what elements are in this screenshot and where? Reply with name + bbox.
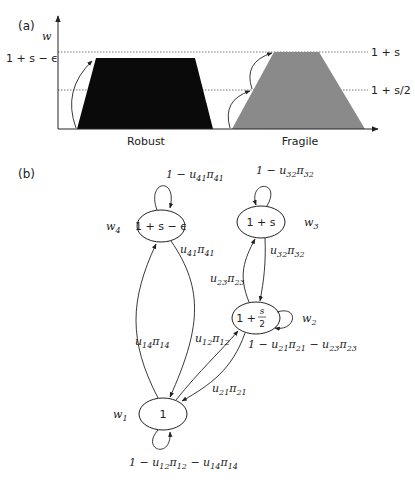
label-self-3: 1 − u32π32: [256, 164, 314, 179]
label-e21: u21π21: [212, 382, 247, 397]
label-e12: u12π12: [195, 332, 230, 347]
weight-w2: w2: [302, 312, 317, 327]
fragile-trapezoid: [232, 52, 365, 129]
robust-peak-label: 1 + s − ϵ: [6, 52, 58, 65]
fragile-mid-label: 1 + s/2: [371, 84, 411, 97]
robust-trapezoid: [77, 58, 213, 129]
label-self-4: 1 − u41π41: [166, 168, 224, 183]
edge-3-to-2: [260, 238, 265, 301]
node-3-value: 1 + s: [247, 216, 276, 229]
label-e14: u14π14: [135, 335, 170, 350]
edge-2-to-3: [243, 239, 255, 302]
self-loop-1: [152, 430, 170, 449]
node-2-value-main: 1 +: [236, 312, 256, 325]
panel-b: (b) 1 + s − ϵ 1 + s 1 + s 2 1 w4 w3 w2 w…: [18, 164, 357, 471]
fragile-label: Fragile: [282, 135, 319, 148]
label-e32: u32π32: [270, 244, 305, 259]
weight-w1: w1: [113, 408, 128, 423]
fragile-peak-label: 1 + s: [371, 46, 400, 59]
node-4-value: 1 + s − ϵ: [135, 220, 187, 233]
weight-w4: w4: [106, 220, 121, 235]
label-self-2: 1 − u21π21 − u23π23: [248, 338, 357, 353]
robust-label: Robust: [127, 135, 166, 148]
label-e41: u41π41: [180, 243, 215, 258]
node-2-value-den: 2: [259, 319, 265, 329]
panel-a-label: (a): [18, 19, 35, 33]
self-loop-3: [255, 186, 271, 206]
edge-4-to-1: [170, 241, 195, 397]
y-axis-label: w: [42, 30, 52, 43]
node-2-value-num: s: [260, 306, 265, 316]
label-e23: u23π23: [210, 272, 245, 287]
self-loop-4: [155, 186, 172, 210]
edge-1-to-4: [136, 244, 158, 398]
figure: (a) w 1 + s − ϵ 1 + s 1 + s/2 Robust Fra…: [0, 0, 415, 483]
panel-a: (a) w 1 + s − ϵ 1 + s 1 + s/2 Robust Fra…: [6, 16, 411, 148]
panel-b-label: (b): [18, 167, 35, 181]
node-1-value: 1: [160, 408, 167, 421]
weight-w3: w3: [304, 216, 319, 231]
label-self-1: 1 − u12π12 − u14π14: [129, 456, 238, 471]
